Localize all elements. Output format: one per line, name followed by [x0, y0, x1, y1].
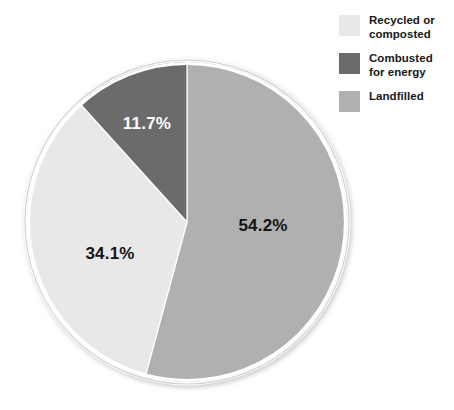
legend-swatch-combusted-icon — [339, 53, 360, 74]
legend-label-landfilled: Landfilled — [369, 90, 424, 104]
legend-label-recycled: Recycled or composted — [369, 14, 435, 41]
legend-label-combusted-line2: for energy — [369, 66, 426, 78]
legend-swatch-landfilled-icon — [339, 91, 360, 112]
legend-label-combusted: Combusted for energy — [369, 52, 433, 79]
chart-legend: Recycled or composted Combusted for ener… — [339, 14, 454, 123]
legend-label-landfilled-line1: Landfilled — [369, 90, 424, 102]
legend-label-recycled-line2: composted — [369, 28, 431, 40]
legend-item-combusted[interactable]: Combusted for energy — [339, 52, 454, 79]
legend-item-recycled[interactable]: Recycled or composted — [339, 14, 454, 41]
legend-item-landfilled[interactable]: Landfilled — [339, 90, 454, 112]
legend-label-combusted-line1: Combusted — [369, 52, 433, 64]
legend-label-recycled-line1: Recycled or — [369, 14, 435, 26]
legend-swatch-recycled-icon — [339, 15, 360, 36]
chart-canvas: 54.2% 34.1% 11.7% Recycled or composted … — [0, 0, 454, 410]
